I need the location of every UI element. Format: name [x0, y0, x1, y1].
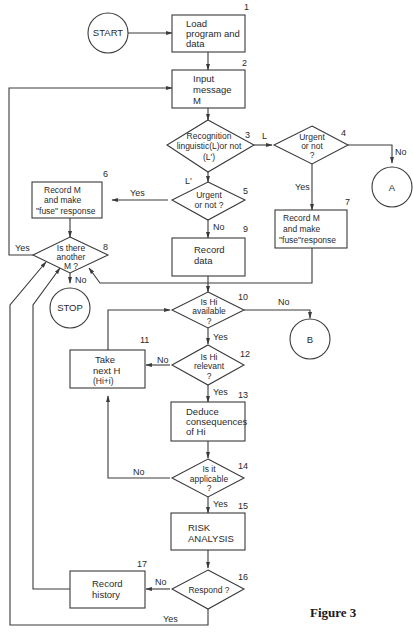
node-14-text-line: Is it [202, 464, 216, 474]
start-terminal: START [88, 13, 128, 53]
node-16-text-line: Respond ? [188, 585, 229, 595]
edge-label: Yes [213, 332, 228, 342]
node-14-applicable-decision: 14 Is it applicable ? [172, 459, 248, 497]
node-15-text-line: ANALYSIS [188, 533, 234, 544]
node-2-number: 2 [242, 58, 247, 68]
node-6-number: 6 [103, 169, 108, 179]
edge-label: No [213, 222, 225, 232]
node-13-deduce-consequences: 13 Deduce consequences of Hi [171, 390, 248, 441]
stop-label: STOP [57, 302, 83, 313]
node-10-number: 10 [238, 292, 248, 302]
node-6-text-line: "fuse" response [36, 206, 96, 216]
node-5-text-line: Urgent [196, 190, 222, 200]
node-16-number: 16 [238, 572, 248, 582]
edge-label: Yes [213, 387, 228, 397]
node-7-text-line: Record M [283, 213, 320, 223]
node-9-record-data: 9 Record data [172, 224, 248, 276]
connector-A: A [372, 167, 412, 207]
node-15-number: 15 [238, 501, 248, 511]
node-8-number: 8 [103, 242, 108, 252]
node-8-another-message-decision: 8 Is there another M ? [33, 237, 108, 273]
edge-label: Yes [130, 188, 145, 198]
node-9-text-line: Record [194, 244, 225, 255]
node-7-text-line: "fuse"response [279, 235, 336, 245]
node-11-number: 11 [140, 335, 149, 345]
node-2-text-line: M [193, 95, 201, 106]
figure-caption: Figure 3 [310, 605, 357, 620]
edge-label: No [133, 467, 145, 477]
node-12-text-line: relevant [194, 361, 225, 371]
edge-label: No [75, 275, 87, 285]
node-14-number: 14 [238, 461, 248, 471]
node-6-record-fuse-response: 6 Record M and make "fuse" response [32, 169, 108, 218]
node-11-text-line: Take [95, 354, 115, 365]
node-5-number: 5 [243, 186, 248, 196]
node-3-text-line: (L') [203, 152, 215, 162]
node-6-text-line: and make [44, 195, 82, 205]
node-12-text-line: ? [207, 371, 212, 381]
node-11-take-next-h: 11 Take next H (Hi+i) [70, 335, 149, 388]
edge-label: Yes [213, 499, 228, 509]
connector-B: B [290, 319, 330, 359]
edge-label: No [278, 297, 290, 307]
edge-label: L [262, 131, 267, 141]
node-7-text-line: and make [283, 224, 321, 234]
edge-label: L' [185, 176, 192, 186]
node-11-text-line: (Hi+i) [93, 376, 114, 386]
node-3-text-line: linguistic(L)or not [177, 141, 242, 151]
stop-terminal: STOP [50, 288, 90, 328]
flowchart: START 1 Load program and data 2 Input me… [0, 0, 413, 632]
node-5-text-line: or not ? [195, 200, 224, 210]
node-10-text-line: available [192, 306, 226, 316]
edge-label: Yes [163, 614, 178, 624]
node-1-number: 1 [244, 2, 249, 12]
node-4-urgent-decision: 4 Urgent or not ? [274, 126, 348, 164]
node-3-number: 3 [245, 130, 250, 140]
node-1-load-program: 1 Load program and data [172, 2, 249, 52]
node-3-text-line: Recognition [187, 131, 232, 141]
edge-label: Yes [15, 243, 30, 253]
node-17-record-history: 17 Record history [70, 559, 147, 608]
node-9-text-line: data [194, 255, 213, 266]
node-1-text-line: data [186, 38, 205, 49]
edge-label: Yes [295, 182, 310, 192]
node-2-text-line: Input [193, 73, 214, 84]
start-label: START [93, 27, 123, 38]
node-12-hi-relevant-decision: 12 Is Hi relevant ? [172, 345, 250, 385]
node-13-text-line: of Hi [186, 426, 206, 437]
node-6-text-line: Record M [44, 185, 81, 195]
node-5-urgent-decision: 5 Urgent or not ? [172, 182, 248, 220]
node-15-risk-analysis: 15 RISK ANALYSIS [171, 501, 248, 550]
node-12-number: 12 [240, 349, 250, 359]
node-16-respond-decision: 16 Respond ? [172, 570, 248, 609]
node-10-hi-available-decision: 10 Is Hi available ? [172, 292, 248, 328]
node-8-text-line: M ? [64, 261, 78, 271]
node-10-text-line: ? [207, 316, 212, 326]
node-4-number: 4 [341, 128, 346, 138]
node-17-text-line: history [92, 589, 120, 600]
node-2-text-line: message [193, 84, 232, 95]
edge-label: No [157, 355, 169, 365]
node-17-text-line: Record [92, 578, 123, 589]
node-15-text-line: RISK [188, 522, 211, 533]
node-17-number: 17 [137, 559, 147, 569]
node-7-number: 7 [345, 197, 350, 207]
node-14-text-line: ? [207, 483, 212, 493]
node-3-recognition-decision: 3 Recognition linguistic(L)or not (L') [167, 120, 254, 172]
edge-label: No [155, 577, 167, 587]
connector-A-label: A [389, 182, 396, 193]
node-11-text-line: next H [93, 365, 121, 376]
node-9-number: 9 [243, 224, 248, 234]
connector-B-label: B [307, 334, 313, 345]
node-13-number: 13 [238, 390, 248, 400]
node-2-input-message: 2 Input message M [172, 58, 247, 108]
node-4-text-line: ? [310, 150, 315, 160]
edge-label: No [395, 147, 407, 157]
